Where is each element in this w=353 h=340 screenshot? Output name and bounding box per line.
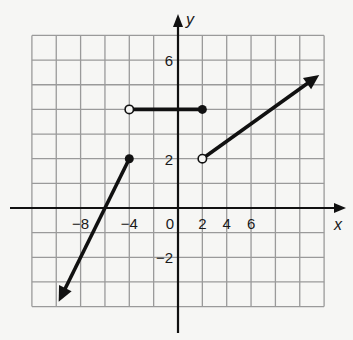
closed-endpoint-icon [125, 154, 134, 163]
x-axis-arrow-icon [334, 203, 346, 213]
open-endpoint-icon [198, 155, 206, 163]
ray-right [202, 81, 311, 159]
x-tick-label: −4 [121, 215, 138, 232]
x-tick-label: 6 [247, 215, 255, 232]
x-tick-label: 2 [198, 215, 206, 232]
x-tick-label: −8 [72, 215, 89, 232]
axes: x y [10, 11, 346, 333]
open-endpoint-icon [125, 105, 133, 113]
y-axis-arrow-icon [173, 14, 183, 27]
x-tick-label: 4 [223, 215, 231, 232]
arrowhead-icon [303, 75, 319, 89]
piecewise-function-graph: x y −8−4024662−2 [0, 0, 353, 340]
y-tick-label: 2 [165, 151, 173, 168]
x-tick-label: 0 [166, 215, 174, 232]
y-tick-label: 6 [165, 52, 173, 69]
y-axis-label: y [185, 11, 195, 28]
closed-endpoint-icon [198, 105, 207, 114]
x-axis-label: x [333, 216, 343, 233]
y-tick-label: −2 [156, 249, 173, 266]
